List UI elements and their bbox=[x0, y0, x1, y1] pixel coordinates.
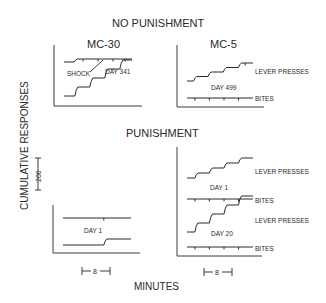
annotation-shock: SHOCK bbox=[67, 70, 91, 77]
record-line-mc5-nopun-0 bbox=[187, 63, 253, 81]
x-scale-label-left: 8 bbox=[93, 268, 97, 275]
day-label-mc30-nopun: DAY 341 bbox=[105, 68, 131, 75]
x-scale-label-right: 8 bbox=[215, 269, 219, 276]
record-line-mc5-pun-day1-0 bbox=[187, 158, 253, 178]
series-label-bites-pun-day1: BITES bbox=[255, 197, 274, 204]
series-label-lever-presses-nopun: LEVER PRESSES bbox=[255, 68, 309, 75]
day-label-mc5-pun-day20: DAY 20 bbox=[211, 230, 233, 237]
y-scale-label: 200 bbox=[35, 170, 42, 182]
series-label-lever-presses-pun-day1: LEVER PRESSES bbox=[255, 168, 309, 175]
shock-pointer bbox=[90, 60, 103, 72]
section-title-no-punishment: NO PUNISHMENT bbox=[112, 17, 205, 29]
record-line-mc5-pun-day20-0 bbox=[187, 196, 253, 232]
record-line-mc30-nopun-1 bbox=[64, 60, 132, 96]
subject-label-mc5: MC-5 bbox=[210, 38, 237, 50]
series-label-lever-presses-pun-day20: LEVER PRESSES bbox=[255, 217, 309, 224]
day-label-mc30-pun: DAY 1 bbox=[84, 227, 103, 234]
x-axis-label: MINUTES bbox=[134, 281, 179, 292]
day-label-mc5-nopun: DAY 499 bbox=[211, 84, 237, 91]
y-axis-label: CUMULATIVE RESPONSES bbox=[19, 81, 30, 210]
day-label-mc5-pun-day1: DAY 1 bbox=[210, 184, 229, 191]
section-title-punishment: PUNISHMENT bbox=[126, 127, 199, 139]
series-label-bites-pun-day20: BITES bbox=[255, 245, 274, 252]
series-label-bites-nopun: BITES bbox=[255, 95, 274, 102]
record-line-mc30-pun-1 bbox=[63, 239, 131, 245]
subject-label-mc30: MC-30 bbox=[87, 38, 120, 50]
cumulative-record-figure: NO PUNISHMENT PUNISHMENT MC-30 MC-5 CUMU… bbox=[0, 0, 326, 303]
